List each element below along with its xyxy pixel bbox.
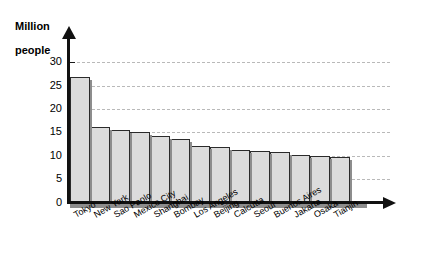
bar xyxy=(70,77,90,202)
y-tick-label: 25 xyxy=(36,79,62,91)
y-tick-label: 0 xyxy=(36,196,62,208)
y-tick-label: 10 xyxy=(36,149,62,161)
y-tick-label: 30 xyxy=(36,55,62,67)
y-tick-label: 15 xyxy=(36,125,62,137)
y-tick-label: 20 xyxy=(36,102,62,114)
y-tick-mark xyxy=(70,62,75,63)
bar xyxy=(270,152,290,202)
y-tick-label: 5 xyxy=(36,172,62,184)
x-axis-arrow xyxy=(383,197,396,209)
gridline xyxy=(72,62,390,63)
bar xyxy=(90,127,110,203)
gridline xyxy=(72,86,390,87)
bar xyxy=(110,130,130,203)
bar-chart: Million people 051015202530 TokyoNew Yor… xyxy=(0,0,434,276)
y-axis-title-line1: Million xyxy=(15,20,50,32)
gridline xyxy=(72,109,390,110)
bar xyxy=(330,157,350,203)
